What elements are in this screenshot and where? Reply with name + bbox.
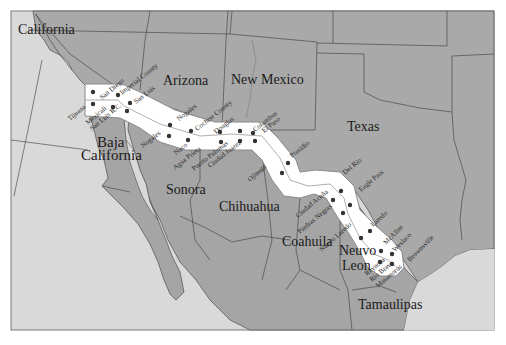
label-arizona: Arizona xyxy=(163,73,209,88)
label-texas: Texas xyxy=(347,119,379,134)
label-neuvo: Neuvo xyxy=(339,243,376,258)
label-california: California xyxy=(18,22,76,37)
label-chihuahua: Chihuahua xyxy=(219,199,280,214)
label-new-mexico: New Mexico xyxy=(231,72,304,87)
border-region-map: California Arizona New Mexico Texas Baja… xyxy=(0,0,506,345)
label-baja-california: California xyxy=(81,147,142,163)
label-sonora: Sonora xyxy=(166,182,206,197)
label-tamaulipas: Tamaulipas xyxy=(358,297,422,312)
